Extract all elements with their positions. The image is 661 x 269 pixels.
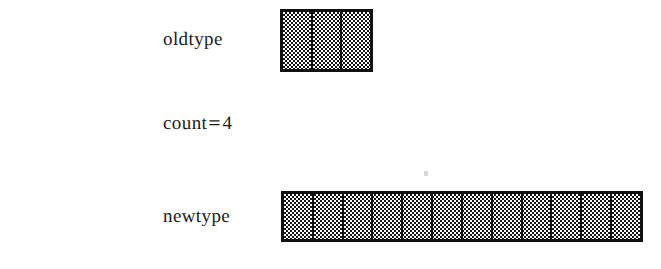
newtype-block xyxy=(281,191,643,242)
newtype-cell xyxy=(284,194,314,239)
newtype-cell xyxy=(493,194,523,239)
figure-canvas: oldtype count=4 newtype xyxy=(0,0,661,269)
newtype-cell xyxy=(403,194,433,239)
newtype-label: newtype xyxy=(163,207,230,226)
count-operator: = xyxy=(206,114,224,133)
scan-speck xyxy=(424,171,428,176)
newtype-cell xyxy=(612,194,640,239)
count-variable: count xyxy=(163,113,207,134)
oldtype-label: oldtype xyxy=(163,30,223,49)
oldtype-block xyxy=(280,9,373,72)
newtype-cell xyxy=(433,194,463,239)
count-annotation: count=4 xyxy=(163,114,232,133)
newtype-cell xyxy=(373,194,403,239)
newtype-cell xyxy=(552,194,582,239)
newtype-cell xyxy=(582,194,612,239)
newtype-cell xyxy=(314,194,344,239)
oldtype-cell xyxy=(283,12,313,69)
newtype-cell xyxy=(463,194,493,239)
newtype-cell xyxy=(523,194,553,239)
count-value: 4 xyxy=(222,113,232,134)
newtype-cell xyxy=(344,194,374,239)
oldtype-cell xyxy=(342,12,370,69)
oldtype-cell xyxy=(313,12,343,69)
